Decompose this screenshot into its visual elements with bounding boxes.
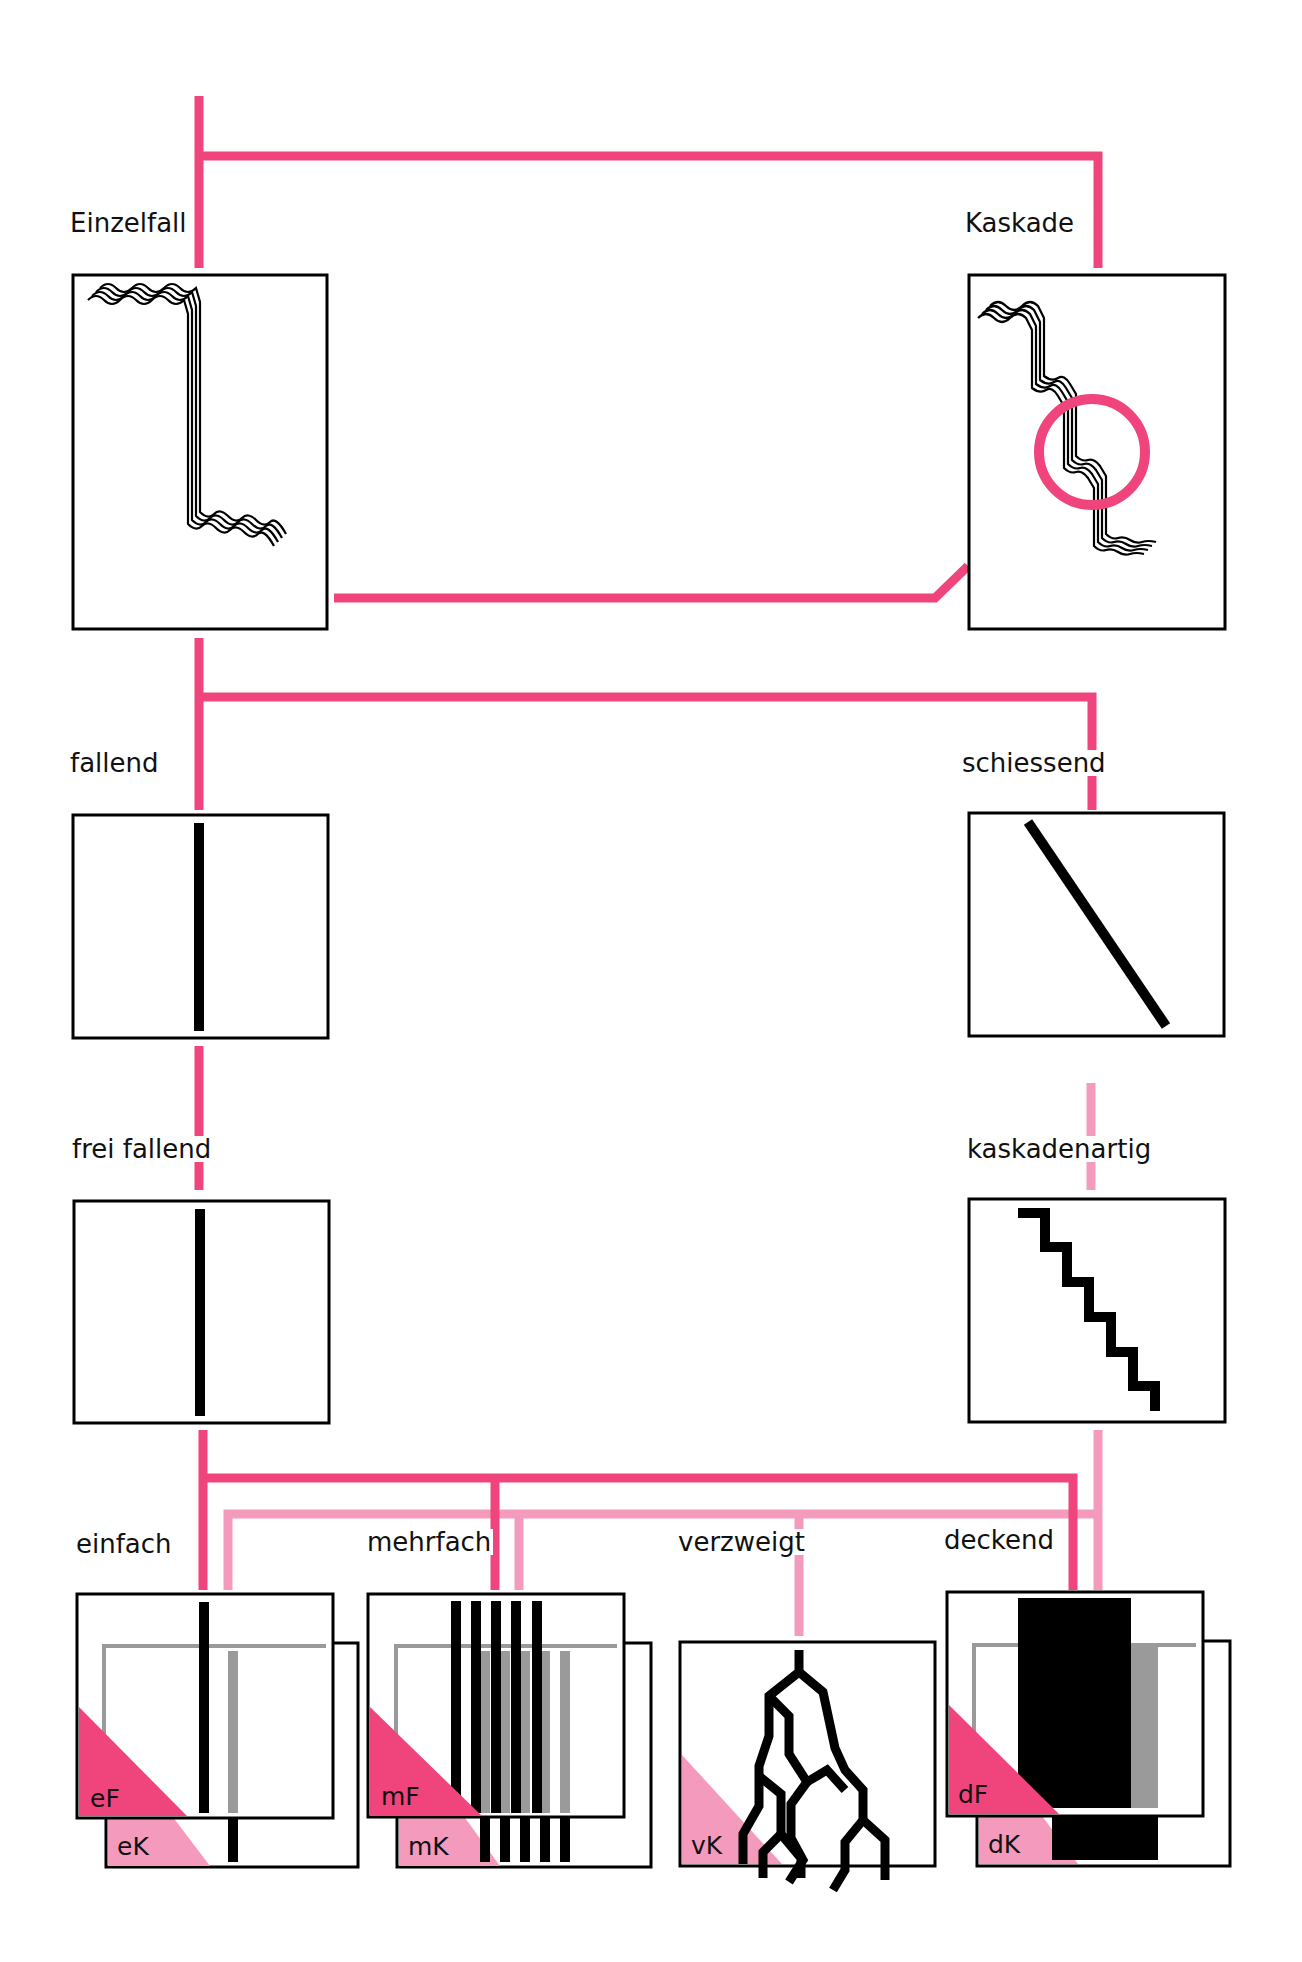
tag-dK: dK (988, 1832, 1020, 1857)
frei-fallend-box (74, 1201, 329, 1423)
tag-mK: mK (408, 1834, 449, 1859)
node-label-frei-fallend: frei fallend (72, 1136, 213, 1162)
level2-connectors (199, 1046, 1095, 1190)
node-label-fallend: fallend (70, 750, 161, 776)
node-label-einzelfall: Einzelfall (70, 210, 189, 236)
node-label-mehrfach: mehrfach (367, 1529, 493, 1555)
tag-mF: mF (381, 1784, 420, 1809)
node-label-schiessend: schiessend (962, 750, 1108, 776)
mehrfach-cards (368, 1594, 651, 1867)
free-fall-icon (195, 1209, 205, 1416)
tag-vK: vK (691, 1833, 722, 1858)
node-label-verzweigt: verzweigt (678, 1529, 807, 1555)
diagram-canvas (0, 0, 1302, 1962)
deckend-cards (947, 1592, 1230, 1866)
kaskadenartig-box (969, 1199, 1225, 1422)
node-label-kaskade: Kaskade (965, 210, 1076, 236)
node-label-deckend: deckend (944, 1527, 1056, 1553)
node-label-kaskadenartig: kaskadenartig (967, 1136, 1153, 1162)
fallend-box (73, 815, 328, 1038)
einfach-cards (77, 1594, 358, 1867)
vertical-fall-icon (194, 823, 204, 1031)
einzelfall-box (73, 275, 327, 629)
tag-eK: eK (117, 1834, 149, 1859)
node-label-einfach: einfach (76, 1531, 174, 1557)
level1-connectors (199, 96, 1098, 810)
tag-dF: dF (958, 1782, 988, 1807)
tag-eF: eF (90, 1786, 120, 1811)
schiessend-box (969, 813, 1224, 1036)
kaskade-box (969, 275, 1225, 629)
